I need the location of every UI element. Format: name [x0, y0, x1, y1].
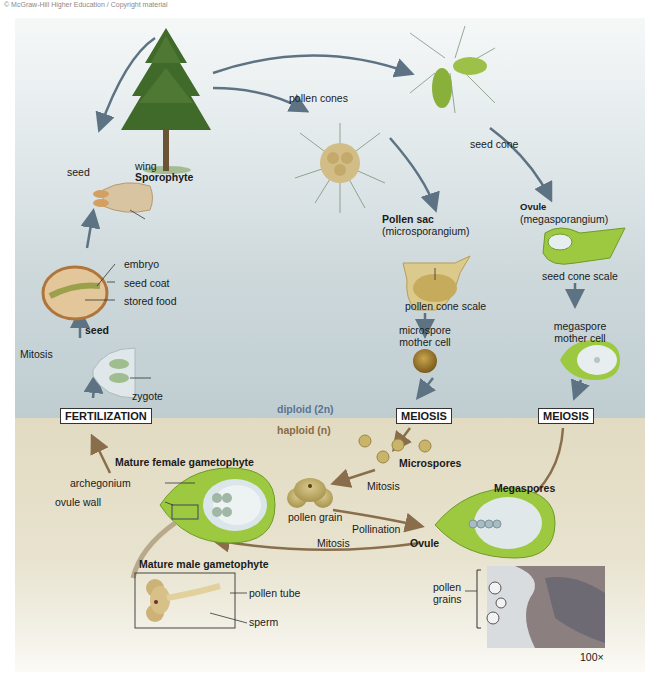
seed-coat-label: seed coat — [124, 277, 170, 289]
wing-label: wing — [135, 160, 157, 172]
pine-life-cycle-diagram: pollen cones seed cone Sporophyte seed w… — [15, 18, 645, 672]
zygote-ovule-icon — [93, 348, 135, 398]
seed-label: seed — [67, 166, 90, 178]
microsporangium-label: (microsporangium) — [382, 225, 470, 237]
copyright-notice: © McGraw-Hill Higher Education / Copyrig… — [4, 1, 168, 8]
mitosis-upper-label: Mitosis — [367, 480, 400, 492]
seed-cone-scale-icon — [543, 228, 625, 264]
ovule-lower-label: Ovule — [410, 537, 439, 549]
ovule-label: Ovule — [520, 202, 608, 213]
archegonium-label: archegonium — [70, 477, 131, 489]
ovule-wall-label: ovule wall — [55, 496, 101, 508]
haploid-zone-label: haploid (n) — [277, 424, 331, 436]
megaspores-label: Megaspores — [494, 482, 555, 494]
pollen-cone-scale-label: pollen cone scale — [405, 300, 486, 312]
fertilization-box: FERTILIZATION — [60, 408, 152, 424]
mitosis-seed-label: Mitosis — [20, 348, 53, 360]
female-gametophyte-icon — [160, 468, 275, 543]
pollen-cone-cluster-icon — [295, 123, 385, 213]
seed-section-icon — [43, 267, 107, 319]
diploid-zone-label: diploid (2n) — [277, 403, 334, 415]
meiosis-right-box: MEIOSIS — [538, 408, 594, 424]
seed-cone-label: seed cone — [470, 138, 518, 150]
mitosis-lower-label: Mitosis — [317, 537, 350, 549]
sporophyte-tree-icon — [121, 28, 211, 174]
microspore-mother-cell-icon — [413, 349, 437, 373]
seed-cone-icon — [410, 26, 495, 113]
diagram-artwork — [15, 18, 645, 672]
pollen-grain-icon — [287, 478, 333, 508]
microspores-label: Microspores — [399, 457, 461, 469]
pollen-cones-label: pollen cones — [289, 92, 348, 104]
sperm-label: sperm — [249, 616, 278, 628]
pollen-sac-title: Pollen sac (microsporangium) — [382, 213, 470, 237]
meiosis-left-box: MEIOSIS — [396, 408, 452, 424]
pollen-tube-label: pollen tube — [249, 587, 300, 599]
megaspores-ovule-icon — [435, 488, 555, 558]
seed-bold-label: seed — [85, 324, 109, 336]
magnification-label: 100× — [580, 651, 604, 663]
male-gametophyte-label: Mature male gametophyte — [139, 558, 269, 570]
stored-food-label: stored food — [124, 295, 177, 307]
megasporangium-label: (megasporangium) — [520, 213, 608, 225]
pollen-grains-label: pollen grains — [433, 581, 462, 605]
female-gametophyte-label: Mature female gametophyte — [115, 456, 254, 468]
sporophyte-label: Sporophyte — [135, 171, 193, 183]
embryo-label: embryo — [124, 258, 159, 270]
megaspore-mother-cell-label: megaspore mother cell — [545, 320, 615, 344]
pollination-label: Pollination — [352, 523, 400, 535]
megaspore-mother-cell-icon — [560, 340, 620, 380]
microspore-mother-cell-label: microspore mother cell — [390, 324, 460, 348]
ovule-title: Ovule (megasporangium) — [520, 202, 608, 225]
winged-seed-icon — [93, 183, 153, 212]
male-gametophyte-box — [135, 573, 235, 628]
pollen-grain-label: pollen grain — [288, 511, 342, 523]
zygote-label: zygote — [132, 390, 163, 402]
pollen-sac-label: Pollen sac — [382, 213, 470, 225]
seed-cone-scale-label: seed cone scale — [542, 270, 618, 282]
pollen-micrograph — [477, 566, 605, 648]
